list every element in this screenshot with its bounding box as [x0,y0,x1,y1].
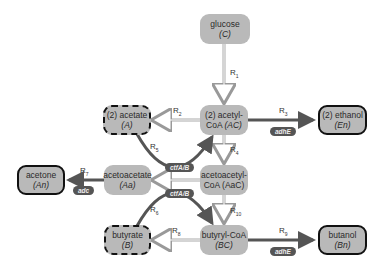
gene-badge-adhe-butanol: adhE [270,247,296,256]
node-acetate: (2) acetate (A) [103,105,151,135]
reaction-label-glucose: R1 [230,68,239,79]
node-ethanol: (2) ethanol (En) [318,105,367,135]
node-acetoacetate: acetoacetate (Aa) [104,165,151,195]
node-butyryl-coa: butyryl-CoA (BC) [200,225,248,255]
reaction-label-butyrate-uptake: R6 [150,205,159,216]
node-acetoacetyl-coa: acetoacetyl- CoA (AaC) [200,165,248,195]
reaction-label-acetate: R2 [173,106,182,117]
gene-badge-adhe-ethanol: adhE [270,127,296,136]
reaction-label-acetone: R7 [80,166,89,177]
node-butyrate: butyrate (B) [104,225,151,255]
reaction-label-acetate-uptake: R5 [150,142,159,153]
node-acetone: acetone (An) [17,165,65,195]
node-acetyl-coa: (2) acetyl- CoA (AC) [200,105,248,135]
node-glucose: glucose (C) [200,14,250,44]
gene-badge-ctfab-bottom: ctfA/B [165,189,194,198]
reaction-label-acetoacetyl: R4 [230,145,239,156]
node-butanol: butanol (Bn) [318,225,367,255]
reaction-label-ethanol: R3 [279,106,288,117]
gene-badge-ctfab-top: ctfA/B [165,163,194,172]
reaction-label-butyryl: R10 [230,206,241,217]
reaction-label-butyrate: R8 [172,226,181,237]
reaction-label-butanol: R9 [279,226,288,237]
gene-badge-adc: adc [73,186,94,195]
